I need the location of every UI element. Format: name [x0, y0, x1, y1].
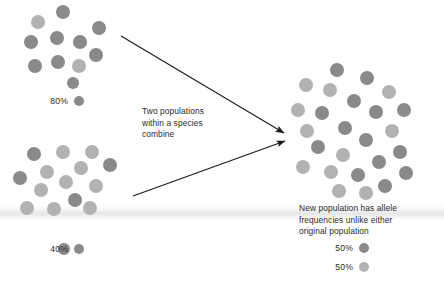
merged-legend-light: 50%	[329, 262, 369, 272]
allele-swatch-light-icon	[359, 262, 369, 272]
arrow-population-two	[133, 141, 285, 196]
arrow-group	[0, 0, 444, 288]
merged-percent-light: 50%	[329, 262, 353, 272]
merged-legend-dark: 50%	[329, 243, 369, 253]
combine-caption: Two populations within a species combine	[142, 106, 242, 141]
diagram-canvas: 80% 40% Two populations within a species…	[0, 0, 444, 288]
merged-percent-dark: 50%	[329, 243, 353, 253]
result-caption: New population has allele frequencies un…	[299, 203, 439, 238]
allele-swatch-dark-icon	[359, 243, 369, 253]
